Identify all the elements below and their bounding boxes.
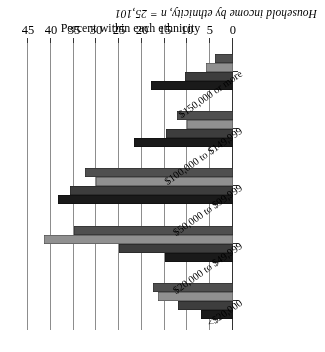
bar	[74, 226, 233, 235]
bar	[187, 120, 233, 129]
bar	[119, 244, 233, 253]
bar	[206, 63, 233, 72]
axis-tick	[73, 38, 74, 43]
axis-tick	[164, 38, 165, 43]
bar	[85, 169, 233, 178]
plot-area: 051015202530354045<$20,000$20,000 to $49…	[28, 43, 233, 330]
axis-tick	[141, 38, 142, 43]
bar-group	[28, 54, 233, 90]
axis-tick	[209, 38, 210, 43]
bar	[44, 235, 233, 244]
bar-group	[28, 226, 233, 262]
bar-chart-figure: Household income by ethnicity, n = 25,10…	[0, 0, 325, 352]
rotated-figure-wrapper: Household income by ethnicity, n = 25,10…	[0, 0, 325, 352]
chart-title: Household income by ethnicity, n = 25,10…	[5, 8, 317, 20]
axis-tick	[118, 38, 119, 43]
bar-group	[28, 111, 233, 147]
axis-tick	[186, 38, 187, 43]
axis-tick	[50, 38, 51, 43]
axis-tick	[95, 38, 96, 43]
axis-tick	[232, 38, 233, 43]
bar	[215, 54, 233, 63]
bar-group	[28, 283, 233, 319]
bar-group	[28, 169, 233, 205]
axis-tick	[27, 38, 28, 43]
value-axis-title: Percent within each ethnicity	[28, 21, 233, 36]
